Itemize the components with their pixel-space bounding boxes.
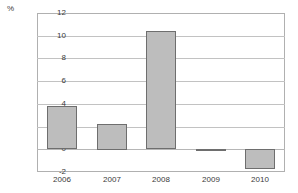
- x-axis-tick-label: 2010: [235, 175, 285, 185]
- bar-chart: % 121086420-2 20062007200820092010: [0, 0, 298, 193]
- y-axis-unit-label: %: [7, 4, 14, 14]
- bar-2009: [196, 149, 226, 151]
- bar-2007: [97, 124, 127, 150]
- bar-2006: [47, 106, 77, 149]
- bars-group: [37, 13, 285, 172]
- x-axis-tick-label: 2008: [136, 175, 186, 185]
- bar-2008: [146, 31, 176, 149]
- bar-2010: [245, 149, 275, 169]
- x-axis-ticks: 20062007200820092010: [37, 175, 285, 189]
- x-axis-tick-label: 2007: [87, 175, 137, 185]
- x-axis-tick-label: 2006: [37, 175, 87, 185]
- x-axis-tick-label: 2009: [186, 175, 236, 185]
